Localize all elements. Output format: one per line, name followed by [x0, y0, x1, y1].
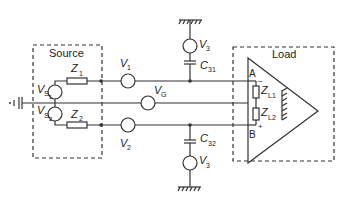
- c31-sub: 31: [208, 66, 216, 73]
- junction-dot: [188, 79, 192, 83]
- terminal-a-label: A: [249, 68, 256, 79]
- v1-sub: 1: [127, 64, 131, 71]
- zl1-resistor-icon: [253, 86, 259, 98]
- z1-sub: 1: [79, 70, 83, 77]
- c31-label: C: [200, 59, 208, 71]
- zl2-resistor-icon: [253, 108, 259, 120]
- v2-sub: 2: [127, 144, 131, 151]
- v3-top-sub: 3: [206, 45, 210, 52]
- vg-source-icon: [141, 96, 155, 110]
- v1-source-icon: [121, 74, 135, 88]
- z1-resistor-icon: [67, 78, 87, 84]
- ground-icon-bottom: [178, 187, 201, 191]
- zl2-sub: L2: [268, 114, 276, 121]
- terminal-b-label: B: [249, 129, 256, 140]
- z2-label: Z: [70, 108, 79, 120]
- c32-label: C: [200, 132, 208, 144]
- junction-dot: [99, 123, 103, 127]
- junction-dot: [99, 79, 103, 83]
- c32-sub: 32: [208, 140, 216, 147]
- terminal-plus-label: +: [258, 122, 263, 131]
- junction-dot: [188, 123, 192, 127]
- ground-terminal-dot: [9, 102, 11, 104]
- v2-source-icon: [121, 118, 135, 132]
- ground-icon-load: [282, 88, 287, 120]
- v3-bottom-source-icon: [183, 156, 197, 170]
- c31-capacitor-icon: [184, 61, 196, 64]
- z2-resistor-icon: [67, 122, 87, 128]
- c32-capacitor-icon: [184, 140, 196, 143]
- ground-icon-left: [14, 97, 22, 109]
- load-label: Load: [272, 48, 296, 60]
- zl1-sub: L1: [268, 92, 276, 99]
- circuit-diagram: Source Load V S 1 V S 2 Z 1 Z 2 V 1 V 2 …: [0, 0, 338, 201]
- vg-sub: G: [161, 91, 166, 98]
- source-label: Source: [49, 47, 84, 59]
- v3-bottom-sub: 3: [206, 162, 210, 169]
- z2-sub: 2: [79, 115, 83, 122]
- z1-label: Z: [70, 62, 79, 74]
- v3-top-source-icon: [183, 39, 197, 53]
- source-box: [33, 45, 102, 158]
